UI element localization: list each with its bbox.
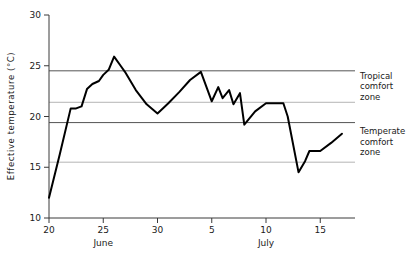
y-tick-label: 20	[30, 112, 42, 122]
zone-annotations: TropicalcomfortzoneTemperatecomfortzone	[359, 71, 405, 158]
x-axis-month-label: June	[92, 238, 113, 248]
y-tick-label: 30	[30, 10, 42, 20]
y-tick-label: 15	[30, 162, 41, 172]
chart-container: 3025201510 20253051015 JuneJuly Effectiv…	[0, 0, 415, 258]
x-tick-label: 20	[43, 225, 55, 235]
line-chart: 3025201510 20253051015 JuneJuly Effectiv…	[0, 0, 415, 258]
zone-annotation-line: comfort	[360, 137, 394, 147]
zone-annotation-line: Tropical	[359, 71, 392, 81]
temperature-line-series	[49, 57, 342, 198]
zone-annotation-line: zone	[360, 92, 380, 102]
axes	[49, 15, 355, 218]
x-axis-ticks: 20253051015	[43, 218, 326, 235]
x-tick-label: 10	[260, 225, 272, 235]
y-tick-label: 10	[30, 213, 42, 223]
x-tick-label: 15	[315, 225, 326, 235]
x-tick-label: 25	[98, 225, 109, 235]
zone-annotation-line: comfort	[360, 81, 394, 91]
x-tick-label: 30	[152, 225, 164, 235]
zone-annotation-line: zone	[360, 147, 380, 157]
y-axis-ticks: 3025201510	[30, 10, 49, 223]
zone-annotation-line: Temperate	[359, 126, 405, 136]
y-axis-title: Effective temperature (°C)	[6, 52, 16, 180]
x-axis-month-label: July	[257, 238, 275, 248]
y-tick-label: 25	[30, 61, 41, 71]
x-tick-label: 5	[209, 225, 215, 235]
zone-lines	[49, 71, 355, 162]
x-axis-month-labels: JuneJuly	[92, 238, 274, 248]
